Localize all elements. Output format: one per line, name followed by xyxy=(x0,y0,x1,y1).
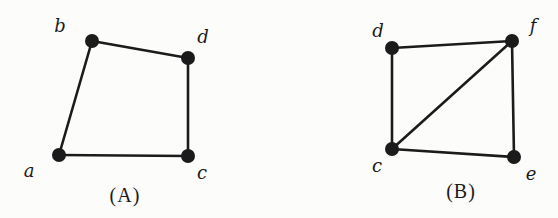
figure-B-vertex-label-d: d xyxy=(372,20,384,41)
figure-B-vertex-f xyxy=(505,34,519,48)
figure-B-vertex-c xyxy=(385,142,399,156)
figure-B-vertex-label-f: f xyxy=(528,15,540,36)
figure-A-vertex-d xyxy=(181,51,195,65)
figure-A-vertex-a xyxy=(52,148,66,162)
figure-B-vertex-d xyxy=(385,41,399,55)
figure-a-caption: (A) xyxy=(110,184,141,207)
figure-area: bdacdfce (A) (B) xyxy=(0,0,558,218)
figure-B-edge-d-f xyxy=(392,41,512,48)
figure-b-caption: (B) xyxy=(446,180,476,203)
figure-A-edge-b-d xyxy=(92,41,188,58)
figure-A-vertex-c xyxy=(181,149,195,163)
figure-A-edge-a-c xyxy=(59,155,188,156)
figure-A-vertex-label-a: a xyxy=(24,160,35,181)
figure-B-edge-f-e xyxy=(512,41,514,157)
figure-A-vertex-b xyxy=(85,34,99,48)
figure-B-vertex-e xyxy=(507,150,521,164)
figure-A-vertex-label-b: b xyxy=(54,15,66,36)
figure-B-vertex-label-c: c xyxy=(372,155,382,176)
figure-B-edge-c-e xyxy=(392,149,514,157)
figure-A-edge-b-a xyxy=(59,41,92,155)
figure-A-vertex-label-c: c xyxy=(197,162,207,183)
figure-A-vertex-label-d: d xyxy=(197,26,209,47)
figure-B-edge-c-f xyxy=(392,41,512,149)
figure-B-vertex-label-e: e xyxy=(526,163,537,184)
